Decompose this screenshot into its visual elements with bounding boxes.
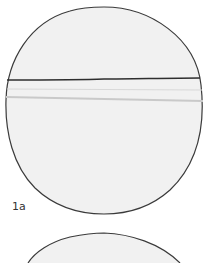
figure-label: 1a bbox=[12, 200, 26, 213]
second-disc bbox=[28, 233, 180, 263]
second-disc-outline bbox=[28, 233, 180, 263]
disc-outline bbox=[6, 7, 202, 214]
main-disc bbox=[6, 7, 203, 214]
figure-canvas bbox=[0, 0, 208, 263]
